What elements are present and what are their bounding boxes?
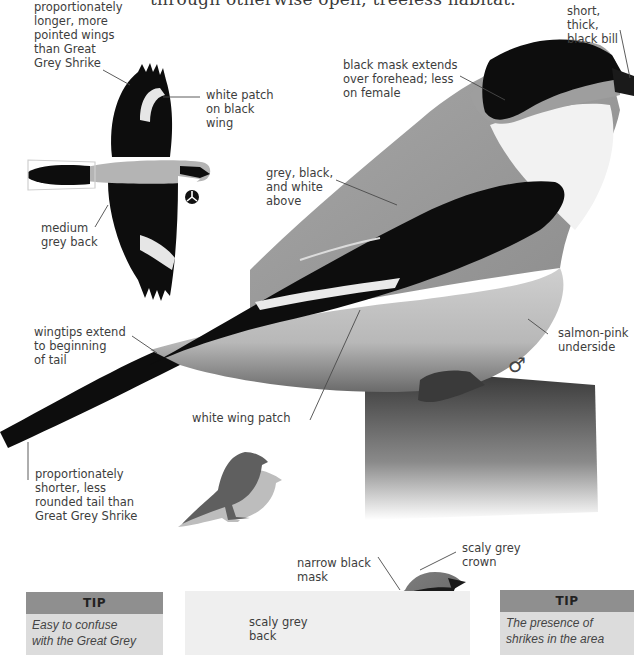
field-guide-page: through otherwise open, treeless habitat… — [0, 0, 634, 655]
tip-text: The presence of shrikes in the area — [500, 612, 634, 650]
juvenile-inset-panel — [185, 591, 470, 655]
label-white-patch-on-wing: white patch on black wing — [206, 88, 274, 130]
label-scaly-grey-crown: scaly grey crown — [462, 541, 521, 569]
tip-box-left: TIP Easy to confuse with the Great Grey — [26, 592, 163, 655]
label-short-thick-bill: short, thick, black bill — [567, 4, 634, 46]
size-comparison-silhouettes — [178, 452, 282, 527]
flight-bird-illustration — [28, 63, 210, 301]
label-proportionately-shorter-tail: proportionately shorter, less rounded ta… — [35, 467, 137, 523]
label-grey-black-white-above: grey, black, and white above — [266, 166, 333, 208]
tip-title: TIP — [500, 590, 634, 612]
main-bird-illustration — [0, 39, 634, 520]
label-scaly-grey-back: scaly grey back — [249, 615, 308, 643]
tip-title: TIP — [26, 592, 163, 614]
label-pointed-wings: proportionately longer, more pointed win… — [34, 0, 123, 70]
label-narrow-black-mask: narrow black mask — [297, 556, 371, 584]
tip-box-right: TIP The presence of shrikes in the area — [500, 590, 634, 655]
tip-text: Easy to confuse with the Great Grey — [26, 614, 163, 652]
label-salmon-pink-underside: salmon-pink underside — [558, 326, 628, 354]
label-black-mask: black mask extends over forehead; less o… — [343, 58, 458, 100]
label-wingtips: wingtips extend to beginning of tail — [34, 325, 126, 367]
flight-view-symbol-icon — [185, 190, 199, 204]
male-symbol-icon: ♂ — [508, 353, 526, 377]
label-white-wing-patch: white wing patch — [192, 411, 290, 425]
label-medium-grey-back: medium grey back — [41, 221, 98, 249]
